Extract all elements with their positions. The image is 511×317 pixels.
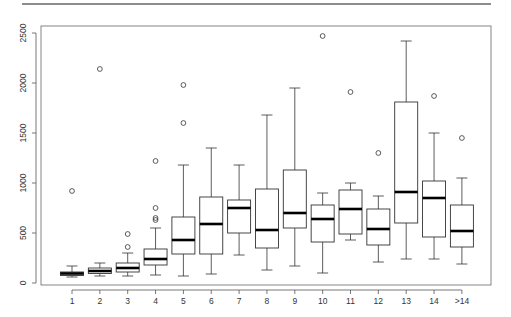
y-tick-label: 500 (18, 226, 28, 240)
x-tick-label: 7 (237, 296, 242, 306)
box-5 (172, 83, 195, 276)
outlier-point (153, 206, 158, 211)
x-tick-label: 12 (374, 296, 384, 306)
outlier-point (181, 83, 186, 88)
outlier-point (97, 67, 102, 72)
box-11 (339, 90, 362, 240)
outlier-point (70, 189, 75, 194)
boxes (61, 34, 474, 277)
box-13 (395, 41, 418, 259)
x-tick-label: 6 (209, 296, 214, 306)
box-7 (228, 165, 251, 255)
y-axis: 05001000150020002500 (18, 23, 36, 285)
outlier-point (432, 94, 437, 99)
x-tick-label: 13 (401, 296, 411, 306)
box-14 (423, 94, 446, 259)
y-tick-label: 1000 (18, 173, 28, 192)
x-tick-label: 11 (346, 296, 355, 306)
x-tick-label: >14 (455, 296, 470, 306)
box-4 (144, 159, 167, 275)
y-tick-label: 0 (18, 280, 28, 285)
outlier-point (181, 121, 186, 126)
box-9 (283, 88, 306, 266)
box-12 (367, 151, 390, 262)
outlier-point (348, 90, 353, 95)
x-tick-label: 9 (292, 296, 297, 306)
x-tick-label: 8 (265, 296, 270, 306)
box->14 (450, 136, 473, 264)
outlier-point (153, 159, 158, 164)
box-10 (311, 34, 334, 273)
y-tick-label: 2500 (18, 23, 28, 42)
outlier-point (125, 245, 130, 250)
outlier-point (376, 151, 381, 156)
boxplot-chart: 05001000150020002500 1234567891011121314… (0, 0, 511, 317)
box-8 (255, 115, 278, 270)
x-axis: 1234567891011121314>14 (70, 290, 470, 306)
x-tick-label: 1 (70, 296, 75, 306)
x-tick-label: 2 (97, 296, 102, 306)
outlier-point (125, 232, 130, 237)
x-tick-label: 14 (429, 296, 439, 306)
x-tick-label: 10 (318, 296, 328, 306)
outlier-point (460, 136, 465, 141)
outlier-point (320, 34, 325, 39)
x-tick-label: 5 (181, 296, 186, 306)
y-tick-label: 1500 (18, 123, 28, 142)
x-tick-label: 3 (125, 296, 130, 306)
x-tick-label: 4 (153, 296, 158, 306)
box-1 (61, 189, 84, 277)
y-tick-label: 2000 (18, 73, 28, 92)
box-3 (116, 232, 139, 276)
box-2 (88, 67, 111, 276)
box-6 (200, 148, 223, 274)
